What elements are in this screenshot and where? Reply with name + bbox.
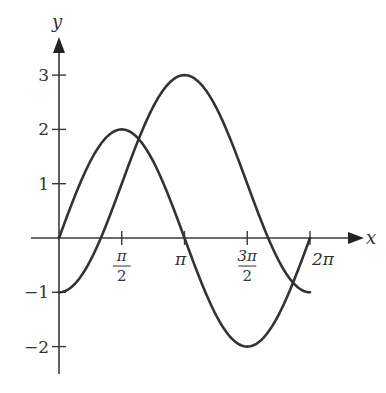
x-axis-arrow-icon: [348, 232, 364, 244]
y-tick-label: −1: [24, 282, 49, 302]
y-tick-label: 2: [38, 119, 49, 139]
x-tick-label-numerator: π: [116, 247, 128, 265]
x-axis-label: x: [366, 227, 376, 248]
chart: x y 321−1−2 π2π3π22π: [0, 0, 386, 393]
x-tick-label-denominator: 2: [242, 267, 252, 285]
x-tick-label-numerator: 3π: [238, 247, 259, 265]
y-tick-label: 3: [38, 65, 49, 85]
y-axis-label: y: [51, 11, 63, 32]
y-tick-label: 1: [38, 174, 49, 194]
y-tick-label: −2: [24, 337, 49, 357]
x-tick-label-denominator: 2: [117, 267, 127, 285]
x-tick-label: π: [174, 249, 187, 269]
x-tick-label: 2π: [311, 249, 335, 269]
y-axis-arrow-icon: [53, 37, 65, 53]
